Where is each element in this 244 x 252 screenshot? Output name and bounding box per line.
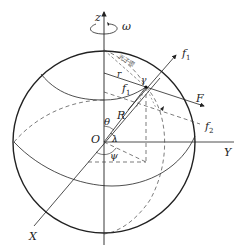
X-axis-label: X — [29, 231, 37, 242]
F-label: F — [196, 93, 204, 104]
f1-outer-label: f1 — [182, 48, 191, 62]
theta-label: θ — [104, 117, 110, 127]
Y-axis-label: Y — [224, 147, 231, 158]
f1-inner-label: f1 — [122, 83, 131, 97]
f2-label: f2 — [205, 121, 214, 135]
z-axis-label: z — [95, 12, 101, 23]
omega-label: ω — [122, 21, 131, 32]
point-label: γ — [141, 76, 146, 85]
R-label: R — [117, 110, 125, 121]
lambda-label: λ — [112, 135, 118, 144]
point-marker — [144, 85, 147, 88]
r-label: r — [117, 70, 121, 79]
sphere-diagram: z ω f1 f1 F f2 r R θ O λ ψ Y X γ 光子密 — [0, 0, 244, 252]
origin-label: O — [91, 134, 100, 145]
psi-label: ψ — [110, 151, 118, 161]
